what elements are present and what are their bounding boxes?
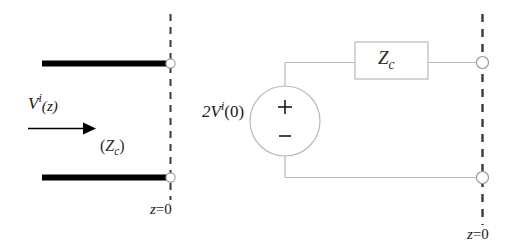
right-reference-plane-label: z=0 bbox=[467, 227, 489, 242]
incident-wave-argument: (z) bbox=[42, 97, 58, 114]
source-voltage-label: 2Vi(0) bbox=[202, 100, 244, 120]
impedance-box-base: Z bbox=[378, 47, 389, 68]
right-lower-terminal-node bbox=[477, 172, 489, 184]
source-base: V bbox=[211, 102, 221, 121]
impedance-box-label: Zc bbox=[378, 48, 395, 71]
right-upper-terminal-node bbox=[477, 57, 489, 69]
diagram-svg bbox=[0, 0, 522, 252]
left-lower-terminal-node bbox=[166, 173, 175, 182]
left-upper-terminal-node bbox=[166, 59, 175, 68]
char-imp-close-paren: ) bbox=[119, 137, 124, 154]
left-z0-value: 0 bbox=[164, 201, 172, 217]
propagation-direction-arrow bbox=[28, 123, 96, 135]
source-coefficient: 2 bbox=[202, 102, 211, 121]
figure-canvas: Vi(z) (Zc) z=0 2Vi(0) Zc z=0 bbox=[0, 0, 522, 252]
right-z0-value: 0 bbox=[481, 226, 489, 242]
char-imp-base: Z bbox=[105, 137, 114, 154]
incident-wave-base: V bbox=[28, 94, 38, 113]
impedance-box-subscript: c bbox=[389, 57, 395, 72]
left-reference-plane-label: z=0 bbox=[150, 202, 172, 217]
source-argument: (0) bbox=[224, 102, 244, 121]
incident-wave-label: Vi(z) bbox=[28, 92, 58, 112]
characteristic-impedance-label: (Zc) bbox=[100, 138, 125, 158]
voltage-source-symbol bbox=[250, 86, 320, 156]
